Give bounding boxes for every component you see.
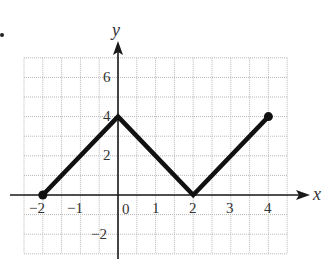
x-tick-label: −2 <box>29 200 45 216</box>
closed-endpoint-dot <box>264 112 273 121</box>
x-tick-label: −1 <box>67 200 83 216</box>
y-tick-label: 6 <box>103 69 111 85</box>
y-tick-label: 2 <box>103 147 111 163</box>
item-bullet <box>0 33 4 37</box>
x-tick-label: 1 <box>152 200 160 216</box>
function-graph: x y −2 −1 0 1 2 3 4 6 4 2 −2 <box>0 0 324 259</box>
x-tick-label: 0 <box>122 201 130 217</box>
x-tick-label: 4 <box>264 200 272 216</box>
x-tick-label: 3 <box>226 200 234 216</box>
y-axis-label: y <box>110 20 120 40</box>
y-tick-label: 4 <box>103 108 111 124</box>
closed-endpoint-dot <box>38 191 47 200</box>
y-tick-label: −2 <box>91 226 107 242</box>
x-tick-label: 2 <box>189 200 197 216</box>
x-axis-label: x <box>312 184 321 204</box>
